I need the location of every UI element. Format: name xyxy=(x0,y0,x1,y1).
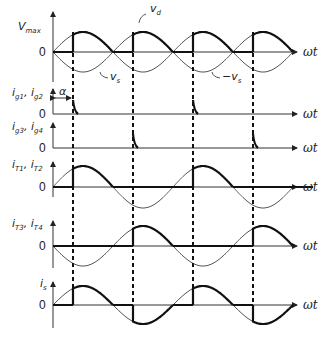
axes-group xyxy=(53,12,297,328)
omega-t-label: ωt xyxy=(303,107,318,121)
zero-label: 0 xyxy=(39,107,46,121)
zero-label: 0 xyxy=(39,180,46,194)
iT34-conduction xyxy=(53,226,293,246)
ig34-label: ig3, ig4 xyxy=(12,120,43,135)
thick-waveforms xyxy=(53,32,313,324)
vd-wave xyxy=(53,32,293,52)
labels-group: ωt0Vmaxvdvs−vsωt0ig1, ig2αωt0ig3, ig4ωt0… xyxy=(12,2,318,312)
vs-pointer xyxy=(100,72,108,78)
zero-label: 0 xyxy=(39,141,46,155)
zero-label: 0 xyxy=(39,298,46,312)
vd-label: vd xyxy=(150,2,162,17)
zero-label: 0 xyxy=(39,239,46,253)
vs-label: vs xyxy=(110,70,121,85)
neg-vs-label: −vs xyxy=(222,70,242,85)
iT34-label: iT3, iT4 xyxy=(12,217,43,232)
neg-vs-pointer xyxy=(212,72,220,78)
omega-t-label: ωt xyxy=(303,180,318,194)
ig12-label: ig1, ig2 xyxy=(12,86,43,101)
iT12-label: iT1, iT2 xyxy=(12,158,43,173)
rectifier-waveform-diagram: ωt0Vmaxvdvs−vsωt0ig1, ig2αωt0ig3, ig4ωt0… xyxy=(0,0,335,340)
vd-pointer xyxy=(139,14,146,23)
omega-t-label: ωt xyxy=(303,45,318,59)
omega-t-label: ωt xyxy=(303,141,318,155)
zero-label: 0 xyxy=(39,45,46,59)
omega-t-label: ωt xyxy=(303,239,318,253)
is-label: is xyxy=(40,277,47,292)
thin-waveforms xyxy=(53,14,293,324)
alpha-label: α xyxy=(59,85,67,98)
omega-t-label: ωt xyxy=(303,298,318,312)
vmax-label: Vmax xyxy=(18,20,42,35)
